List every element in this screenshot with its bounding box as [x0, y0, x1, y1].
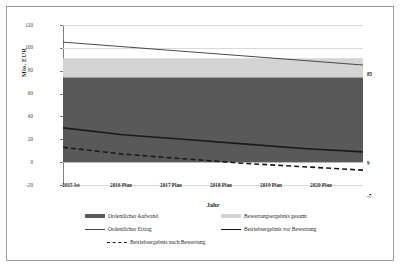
legend-swatch-area-icon [85, 214, 105, 218]
legend-label: Betriebsergebnis vor Bewertung [244, 226, 316, 232]
y-tick-label: 0 [7, 159, 33, 165]
x-tick-label: 2018 Plan [199, 182, 243, 189]
y-tick-label: 20 [7, 136, 33, 142]
x-tick-label: 2015 Ist [49, 182, 93, 189]
area-bewertungsergebnis-gesamt [63, 58, 363, 77]
legend-label: Ordentlicher Aufwand [108, 213, 158, 219]
y-tick-label: 80 [7, 67, 33, 73]
legend-item-betriebsergebnis-vor-bewertung[interactable]: Betriebsergebnis vor Bewertung [221, 226, 316, 232]
legend-item-betriebsergebnis-nach-bewertung[interactable]: Betriebsergebnis nach Bewertung [107, 239, 205, 245]
legend-item-bewertungsergebnis-gesamt[interactable]: Bewertungsergebnis gesamt [221, 213, 307, 219]
x-tick-label: 2016 Plan [99, 182, 143, 189]
y-tick-label: 100 [7, 44, 33, 50]
end-label-ordentlicher-ertrag: 85 [367, 71, 372, 77]
legend-label: Betriebsergebnis nach Bewertung [130, 239, 205, 245]
legend-label: Bewertungsergebnis gesamt [244, 213, 307, 219]
legend-swatch-thick-line-icon [221, 229, 241, 230]
legend-item-ordentlicher-aufwand[interactable]: Ordentlicher Aufwand [85, 213, 158, 219]
legend-label: Ordentlicher Ertrag [108, 226, 152, 232]
stacked-areas [63, 58, 363, 162]
x-axis-tick-labels: 2015 Ist 2016 Plan 2017 Plan 2018 Plan 2… [63, 182, 363, 196]
chart-series-svg [63, 25, 363, 185]
chart-frame: Mio. EUR 120 100 80 60 40 20 0 -20 [6, 6, 394, 261]
x-tick-label: 2020 Plan [299, 182, 343, 189]
x-axis-title: Jahr [63, 201, 363, 208]
y-tick-label: 60 [7, 90, 33, 96]
legend-swatch-dashed-line-icon [107, 242, 127, 243]
legend-item-ordentlicher-ertrag[interactable]: Ordentlicher Ertrag [85, 226, 152, 232]
end-label-betriebsergebnis-nach-bewertung: -7 [367, 193, 371, 199]
x-tick-label: 2019 Plan [249, 182, 293, 189]
chart-legend: Ordentlicher Aufwand Bewertungsergebnis … [63, 213, 363, 252]
y-tick-label: 120 [7, 22, 33, 28]
legend-swatch-line-icon [85, 229, 105, 230]
end-label-betriebsergebnis-vor-bewertung: 9 [367, 160, 370, 166]
y-tick-label: 40 [7, 113, 33, 119]
x-tick-label: 2017 Plan [149, 182, 193, 189]
legend-swatch-area-icon [221, 214, 241, 218]
plot-area [63, 25, 363, 185]
y-tick-label: -20 [7, 182, 33, 188]
